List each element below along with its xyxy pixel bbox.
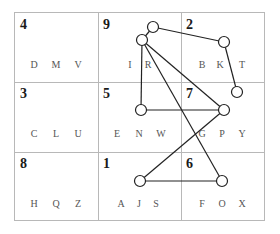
edge [224,42,237,92]
edge [141,40,142,110]
node-circle [148,22,159,33]
edge [142,40,224,110]
edge [153,27,224,42]
node-circle [136,105,147,116]
node-circle [217,176,228,187]
node-circle [219,105,230,116]
node-circle [135,176,146,187]
connection-graph [0,0,280,234]
node-circle [232,87,243,98]
node-circle [219,37,230,48]
edge [140,110,224,181]
node-circle [137,35,148,46]
